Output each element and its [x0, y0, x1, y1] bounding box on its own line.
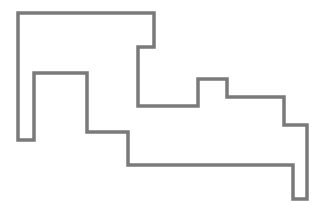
- diagram-canvas: [0, 0, 321, 203]
- polygon-diagram: [0, 0, 321, 203]
- rectilinear-outline-shape: [18, 13, 307, 199]
